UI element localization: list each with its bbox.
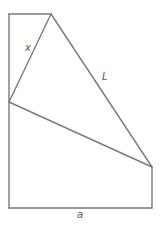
label-x: x bbox=[24, 42, 31, 53]
label-L: L bbox=[102, 71, 108, 82]
folded-paper-diagram: x L a bbox=[0, 0, 162, 227]
label-a: a bbox=[77, 209, 83, 220]
folded-segment-x bbox=[9, 14, 51, 102]
